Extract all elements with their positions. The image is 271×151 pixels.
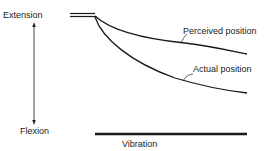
extension-flexion-axis (32, 22, 35, 125)
vibration-label: Vibration (122, 139, 157, 149)
extension-label: Extension (3, 10, 43, 20)
initial-position-line (70, 14, 95, 17)
flexion-label: Flexion (20, 126, 49, 136)
perceived-position-label: Perceived position (183, 26, 257, 36)
actual-position-label: Actual position (193, 64, 252, 74)
actual-leader-line (183, 74, 193, 81)
